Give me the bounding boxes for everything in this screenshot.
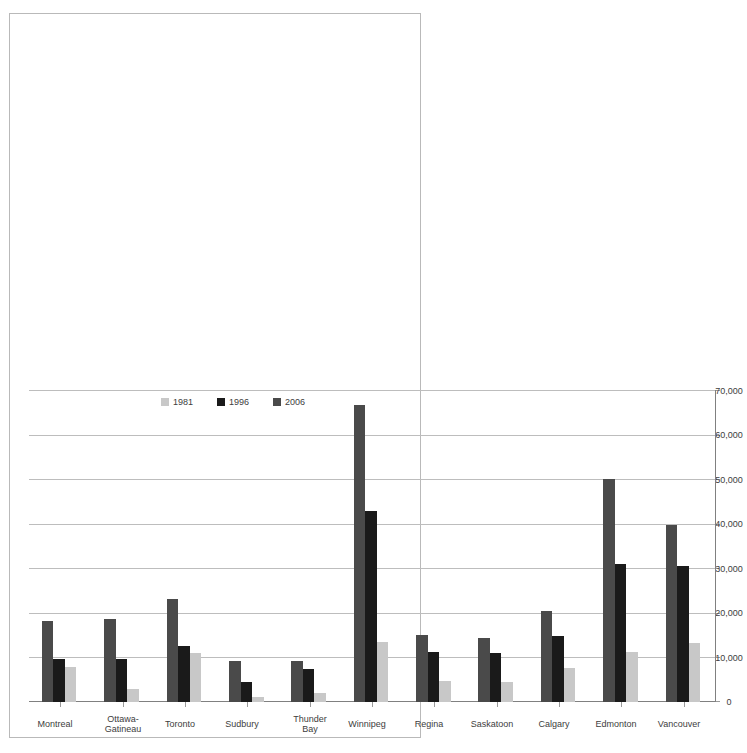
bar (377, 642, 389, 702)
category-axis-tick (621, 702, 622, 707)
bar (241, 682, 253, 702)
bar (564, 668, 576, 702)
bar (229, 661, 241, 702)
bar (603, 479, 615, 702)
gridline (29, 391, 715, 392)
category-axis-tick (247, 702, 248, 707)
bar (303, 669, 315, 702)
category-axis-label: Edmonton (588, 719, 644, 729)
category-axis-tick (434, 702, 435, 707)
value-axis-tick-label: 60,000 (699, 430, 747, 440)
category-axis-label: Toronto (152, 719, 208, 729)
bar (65, 667, 77, 702)
bar (501, 682, 513, 702)
bar (354, 405, 366, 702)
category-axis-label: Regina (401, 719, 457, 729)
bar (42, 621, 54, 702)
rotated-chart-host: 010,00020,00030,00040,00050,00060,00070,… (9, 13, 421, 738)
plot-area: 010,00020,00030,00040,00050,00060,00070,… (9, 13, 421, 738)
bar (615, 564, 627, 702)
category-axis-tick (372, 702, 373, 707)
category-axis-label: Saskatoon (464, 719, 520, 729)
bar (677, 567, 689, 703)
bar (314, 693, 326, 702)
category-axis-label: Calgary (526, 719, 582, 729)
category-axis-tick (60, 702, 61, 707)
category-axis-tick (559, 702, 560, 707)
bar (365, 511, 377, 702)
legend-item[interactable]: 1996 (217, 397, 249, 407)
legend-item[interactable]: 2006 (273, 397, 305, 407)
bar (490, 653, 502, 702)
legend-swatch-icon (217, 398, 225, 406)
value-axis-tick-label: 10,000 (699, 653, 747, 663)
value-axis-tick-label: 30,000 (699, 564, 747, 574)
bar (104, 619, 116, 702)
bar (552, 636, 564, 702)
category-axis-tick (684, 702, 685, 707)
value-axis-tick-label: 40,000 (699, 519, 747, 529)
category-axis-label: Ottawa- Gatineau (95, 714, 151, 734)
value-axis-line (715, 391, 716, 703)
bar (689, 643, 701, 702)
legend-label: 2006 (285, 397, 305, 407)
value-axis-tick-label: 70,000 (699, 386, 747, 396)
category-axis-label: Winnipeg (339, 719, 395, 729)
category-axis-tick (497, 702, 498, 707)
legend-swatch-icon (161, 398, 169, 406)
value-axis-tick-label: 20,000 (699, 608, 747, 618)
category-axis-label: Sudbury (214, 719, 270, 729)
category-axis-tick (185, 702, 186, 707)
category-axis-label: Thunder Bay (282, 714, 338, 734)
category-axis-tick (123, 702, 124, 707)
bar (428, 652, 440, 702)
bar (478, 638, 490, 702)
bar (252, 697, 264, 702)
bar (167, 599, 179, 702)
bar (178, 646, 190, 702)
category-axis-label: Vancouver (651, 719, 707, 729)
bar (541, 611, 553, 702)
category-axis-label: Montreal (27, 719, 83, 729)
legend-label: 1996 (229, 397, 249, 407)
category-axis-tick (310, 702, 311, 707)
bar (53, 659, 65, 702)
bar (626, 652, 638, 702)
bar (190, 653, 202, 702)
bar (127, 689, 139, 702)
bar (666, 525, 678, 702)
legend-item[interactable]: 1981 (161, 397, 193, 407)
bar (291, 661, 303, 702)
gridline (29, 435, 715, 436)
bar (439, 681, 451, 702)
bar (116, 659, 128, 702)
bar (416, 635, 428, 702)
value-axis-tick-label: 50,000 (699, 475, 747, 485)
legend-swatch-icon (273, 398, 281, 406)
legend-label: 1981 (173, 397, 193, 407)
